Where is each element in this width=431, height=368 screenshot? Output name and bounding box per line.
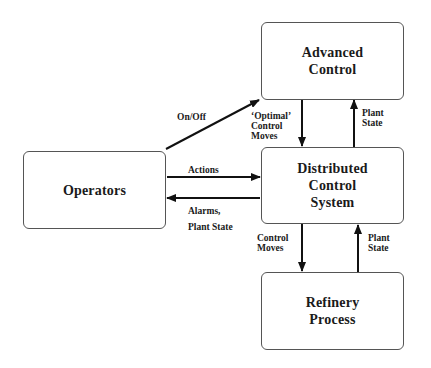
advanced-control-box: Advanced Control bbox=[261, 22, 404, 100]
on-off-label: On/Off bbox=[177, 112, 206, 122]
on-off-arrow bbox=[166, 100, 259, 149]
operators-label: Operators bbox=[63, 182, 126, 199]
refinery-process-label: Refinery Process bbox=[306, 294, 360, 328]
dcs-label: Distributed Control System bbox=[297, 160, 368, 211]
alarms-label: Alarms, Plant State bbox=[188, 203, 233, 235]
optimal-moves-label: ‘Optimal’ Control Moves bbox=[251, 111, 291, 141]
operators-box: Operators bbox=[23, 151, 166, 229]
advanced-control-label: Advanced Control bbox=[302, 44, 364, 78]
control-moves-label: Control Moves bbox=[257, 233, 289, 253]
actions-label: Actions bbox=[188, 165, 219, 175]
refinery-process-box: Refinery Process bbox=[261, 272, 404, 350]
plant-state-upper-label: Plant State bbox=[362, 108, 384, 128]
plant-state-lower-label: Plant State bbox=[368, 233, 390, 253]
dcs-box: Distributed Control System bbox=[261, 147, 404, 224]
